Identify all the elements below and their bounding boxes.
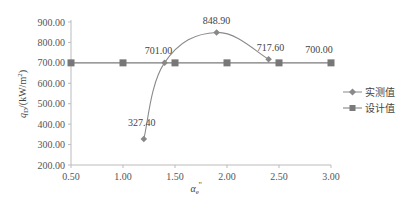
legend-item-measured: 实测值	[343, 86, 395, 98]
legend: 实测值 设计值	[343, 86, 395, 114]
y-tick-label: 800.00	[38, 37, 66, 48]
square-marker-icon	[68, 59, 75, 66]
diamond-marker-icon	[349, 88, 356, 95]
x-tick-label: 1.50	[166, 171, 184, 182]
x-axis-label: αe''	[190, 181, 202, 196]
square-marker-icon	[328, 59, 335, 66]
diamond-marker-icon	[265, 56, 272, 63]
plot-series	[68, 29, 335, 142]
square-marker-icon	[276, 59, 283, 66]
data-label: 700.00	[305, 44, 333, 55]
x-tick-label: 2.50	[270, 171, 288, 182]
x-tick-label: 0.50	[62, 171, 80, 182]
y-axis-label: qD/(kW/m2)	[16, 70, 30, 118]
square-marker-icon	[120, 59, 127, 66]
x-axis-ticks: 0.501.001.502.002.503.00	[62, 165, 340, 182]
y-axis-ticks: 200.00300.00400.00500.00600.00700.00800.…	[38, 17, 72, 171]
legend-label-design: 设计值	[365, 102, 395, 114]
legend-label-measured: 实测值	[365, 86, 395, 98]
y-tick-label: 500.00	[38, 98, 66, 109]
diamond-marker-icon	[141, 136, 148, 143]
data-label: 848.90	[203, 15, 231, 26]
chart-canvas: 200.00300.00400.00500.00600.00700.00800.…	[0, 0, 406, 207]
diamond-marker-icon	[213, 29, 220, 36]
data-labels: 700.00327.40701.00848.90717.60	[128, 15, 333, 128]
y-tick-label: 400.00	[38, 119, 66, 130]
data-label: 327.40	[128, 117, 156, 128]
y-tick-label: 600.00	[38, 78, 66, 89]
square-marker-icon	[172, 59, 179, 66]
legend-item-design: 设计值	[343, 102, 395, 114]
data-label: 701.00	[145, 45, 173, 56]
y-tick-label: 300.00	[38, 139, 66, 150]
y-tick-label: 900.00	[38, 17, 66, 28]
x-tick-label: 3.00	[322, 171, 340, 182]
y-tick-label: 200.00	[38, 160, 66, 171]
x-tick-label: 1.00	[114, 171, 132, 182]
square-marker-icon	[224, 59, 231, 66]
axes	[71, 20, 331, 165]
square-marker-icon	[350, 105, 356, 111]
y-tick-label: 700.00	[38, 57, 66, 68]
data-label: 717.60	[257, 42, 285, 53]
x-tick-label: 2.00	[218, 171, 236, 182]
